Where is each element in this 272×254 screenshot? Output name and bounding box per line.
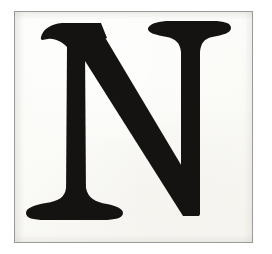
specimen-canvas <box>0 0 272 254</box>
glyph-stage <box>15 12 252 242</box>
specimen-frame <box>14 11 253 243</box>
glyph-bottom-left-foot-serif <box>26 188 123 220</box>
glyph-top-right-serif <box>148 21 231 52</box>
letter-n-glyph <box>15 12 252 242</box>
glyph-diagonal-stroke <box>73 34 199 216</box>
glyph-left-stem <box>66 46 86 198</box>
